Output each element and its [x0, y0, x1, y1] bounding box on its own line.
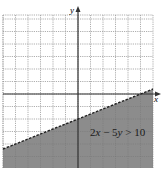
- y-axis-arrow-icon: [76, 6, 81, 12]
- inequality-graph: x y 2x − 5y > 10: [0, 0, 164, 171]
- x-axis-label: x: [153, 94, 158, 104]
- y-axis-label: y: [69, 5, 74, 15]
- inequality-label: 2x − 5y > 10: [90, 126, 146, 138]
